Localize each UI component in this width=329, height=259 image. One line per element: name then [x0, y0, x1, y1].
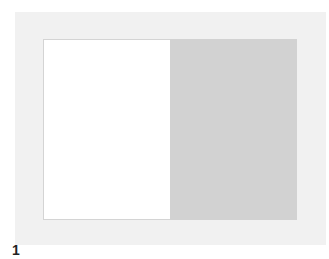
white-panel [43, 39, 170, 220]
figure-label: 1 [12, 242, 20, 258]
gray-panel [170, 39, 297, 220]
